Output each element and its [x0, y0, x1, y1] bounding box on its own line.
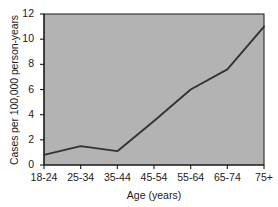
- x-tick-label: 45-54: [134, 171, 174, 183]
- y-axis-title: Cases per 100,000 person-years: [8, 10, 20, 170]
- x-tick-label: 55-64: [171, 171, 211, 183]
- x-tick-label: 25-34: [61, 171, 101, 183]
- chart-figure: 024681012 18-2425-3435-4445-5455-6465-74…: [0, 0, 278, 207]
- x-tick-label: 18-24: [24, 171, 64, 183]
- x-tick-label: 65-74: [207, 171, 247, 183]
- x-axis-title: Age (years): [44, 189, 264, 201]
- x-tick-label-group: 18-2425-3435-4445-5455-6465-7475+: [0, 0, 278, 207]
- x-tick-label: 75+: [244, 171, 278, 183]
- x-tick-label: 35-44: [97, 171, 137, 183]
